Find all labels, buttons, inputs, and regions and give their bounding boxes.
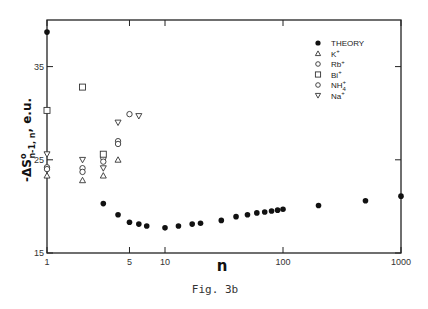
legend-item: Bi+ [315,69,342,80]
plot-border [47,20,401,253]
data-point [245,212,251,218]
legend-item: Na+ [315,90,345,101]
data-point [115,212,121,218]
data-point [275,207,281,213]
data-point [398,193,404,199]
legend-label: Rb+ [331,59,345,70]
data-point [363,198,369,204]
data-point [44,29,50,35]
data-point [262,209,268,215]
legend-marker [315,93,320,98]
legend-label: K+ [331,48,340,59]
data-points [44,29,404,230]
data-point [100,166,106,171]
data-point [101,201,107,207]
data-point [100,173,106,178]
legend-label: Bi+ [331,69,342,80]
data-point [136,221,142,227]
legend-marker [316,83,321,88]
data-point [115,120,121,125]
data-point [198,220,204,226]
data-point [176,223,182,229]
figure-caption: Fig. 3b [192,283,238,296]
legend-label: Na+ [331,90,345,101]
series-theory [44,29,404,230]
series-na- [44,114,142,172]
legend-marker [315,40,320,45]
scatter-chart: 15101001000152535 THEORYK+Rb+Bi+NH4+Na+ … [0,0,428,309]
legend-marker [315,51,320,56]
plot-frame [47,20,401,253]
y-tick-label: 15 [34,248,44,258]
data-point [101,159,106,164]
data-point [44,166,49,171]
x-tick-label: 1 [44,257,49,267]
data-point [100,151,106,157]
data-point [44,107,50,113]
data-point [162,225,168,231]
data-point [233,214,239,220]
data-point [254,210,260,216]
data-point [316,203,322,209]
data-point [127,219,133,225]
data-point [44,152,50,157]
data-point [269,208,275,214]
data-point [44,173,50,178]
y-axis-label-text: -ΔSon-1, n, e.u. [19,98,37,182]
data-point [144,223,150,229]
data-point [189,221,195,227]
y-axis-label: -ΔSon-1, n, e.u. [19,98,37,182]
legend-marker [316,62,321,67]
x-tick-label: 100 [275,257,290,267]
legend-marker [315,72,320,77]
data-point [127,111,132,116]
legend-item: K+ [315,48,340,59]
x-tick-label: 1000 [391,257,411,267]
legend-item: THEORY [315,39,364,48]
data-point [115,141,120,146]
legend-item: Rb+ [316,59,346,70]
data-point [136,114,142,119]
y-tick-label: 35 [34,62,44,72]
series-bi- [44,84,106,157]
legend: THEORYK+Rb+Bi+NH4+Na+ [315,39,364,101]
data-point [80,84,86,90]
x-axis-label: n [217,257,228,275]
series-rb- [44,138,120,170]
data-point [280,206,286,212]
data-point [115,157,121,162]
x-tick-label: 10 [160,257,170,267]
axis-ticks: 15101001000152535 [34,20,411,267]
data-point [80,157,86,162]
x-tick-label: 5 [127,257,132,267]
data-point [219,218,225,224]
data-point [80,177,86,182]
legend-label: THEORY [331,39,365,48]
data-point [80,169,85,174]
